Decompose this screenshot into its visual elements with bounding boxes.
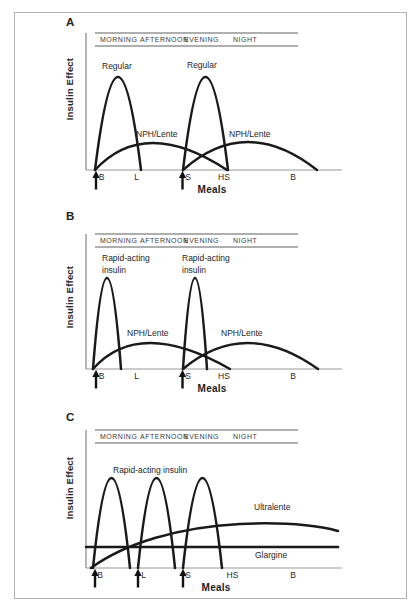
panel-a-meal-breakfast: B — [99, 172, 105, 182]
panel-a-regular-curve-2 — [183, 77, 228, 170]
panel-b-timeband-afternoon: AFTERNOON — [140, 237, 188, 244]
panel-a-meal-lunch: L — [134, 172, 139, 182]
panel-a-nph-lente-curve-2 — [183, 142, 317, 170]
panel-c-meal-bedtime: HS — [227, 570, 239, 580]
panel-b-rapid-label-1-line-1: Rapid-acting — [102, 253, 150, 263]
panel-b-nph-lente-curve-1 — [93, 343, 230, 369]
panel-c-timeband-evening: EVENING — [184, 433, 219, 440]
panel-a-timeband-afternoon: AFTERNOON — [140, 36, 188, 43]
panel-c-meal-supper: S — [185, 570, 191, 580]
panel-c-letter: C — [66, 411, 75, 423]
panel-a-y-axis-label: Insulin Effect — [64, 49, 76, 129]
panel-a-regular-label-1: Regular — [102, 61, 132, 71]
panel-a-timeband-evening: EVENING — [184, 36, 219, 43]
panel-a-meal-supper: S — [185, 172, 191, 182]
panel-b-nph-lente-label-1: NPH/Lente — [127, 328, 169, 338]
panel-a-lines — [86, 33, 342, 190]
panel-c-meal-breakfast-2: B — [290, 570, 296, 580]
panel-c-ultralente-label: Ultralente — [254, 502, 290, 512]
panel-a-nph-lente-label-1: NPH/Lente — [136, 129, 178, 139]
panel-b-meal-lunch: L — [134, 371, 139, 381]
panel-b-nph-lente-label-2: NPH/Lente — [221, 328, 263, 338]
panel-c-meal-lunch: L — [141, 570, 146, 580]
panel-b-meal-breakfast-2: B — [290, 371, 296, 381]
panel-a-timeband-morning: MORNING — [100, 36, 137, 43]
panel-c-glargine-label: Glargine — [255, 550, 287, 560]
panel-b-meal-breakfast: B — [99, 371, 105, 381]
panel-c-lines — [86, 430, 342, 588]
panel-b-letter: B — [66, 210, 75, 222]
panel-c-timeband-afternoon: AFTERNOON — [140, 433, 188, 440]
panel-a-nph-lente-curve-1 — [95, 143, 227, 170]
panel-c-meal-breakfast: B — [97, 570, 103, 580]
panel-b-timeband-night: NIGHT — [233, 237, 257, 244]
panel-a-timeband-night: NIGHT — [233, 36, 257, 43]
panel-b-timeband-morning: MORNING — [100, 237, 137, 244]
figure-lines — [0, 0, 414, 610]
panel-b-x-axis-label: Meals — [198, 383, 227, 394]
panel-a-meal-bedtime: HS — [218, 172, 230, 182]
panel-c-timeband-morning: MORNING — [100, 433, 137, 440]
panel-a-nph-lente-label-2: NPH/Lente — [229, 129, 271, 139]
panel-b-rapid-label-1-line-2: insulin — [102, 265, 126, 275]
panel-a-regular-curve-1 — [95, 77, 141, 170]
panel-b-timeband-evening: EVENING — [184, 237, 219, 244]
panel-b-y-axis-label: Insulin Effect — [64, 257, 76, 337]
panel-b-meal-bedtime: HS — [218, 371, 230, 381]
panel-b-rapid-label-2-line-1: Rapid-acting — [182, 253, 230, 263]
panel-b-meal-supper: S — [185, 371, 191, 381]
panel-b-rapid-label-2-line-2: insulin — [182, 265, 206, 275]
insulin-regimen-figure: A MORNING AFTERNOON EVENING NIGHT Insuli… — [0, 0, 414, 610]
panel-c-rapid-curve-3 — [183, 478, 222, 568]
panel-c-x-axis-label: Meals — [202, 582, 231, 593]
panel-b-nph-lente-curve-2 — [183, 343, 318, 369]
panel-a-x-axis-label: Meals — [198, 184, 227, 195]
panel-c-timeband-night: NIGHT — [233, 433, 257, 440]
panel-a-meal-breakfast-2: B — [290, 172, 296, 182]
panel-c-y-axis-label: Insulin Effect — [64, 448, 76, 528]
panel-a-regular-label-2: Regular — [187, 60, 217, 70]
panel-c-rapid-curve-2 — [138, 478, 175, 568]
panel-c-rapid-label: Rapid-acting insulin — [113, 465, 187, 475]
panel-a-letter: A — [66, 16, 75, 28]
